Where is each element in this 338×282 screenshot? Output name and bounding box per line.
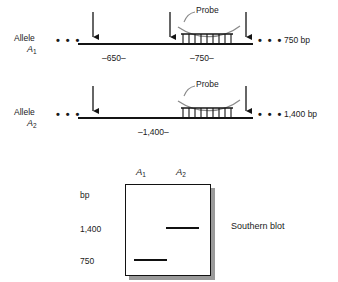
gel-lane-header-a2: A2 [176, 166, 186, 177]
allele-2-probe-leader [184, 86, 195, 96]
gel-size-marker-750: 750 [80, 256, 94, 266]
allele-2-probe-graphic [178, 86, 240, 117]
gel-band-a1-750 [134, 259, 167, 261]
gel-band-a2-1400 [166, 227, 199, 229]
gel-lane-header-a1: A1 [136, 166, 146, 177]
gel-lane-header-a1-sub: 1 [142, 171, 146, 178]
allele-1-probe-leader [184, 12, 195, 22]
allele-1-hybridization-ticks [183, 34, 231, 43]
allele-2-hybridization-ticks [183, 108, 231, 117]
gel-lane-header-a2-sub: 2 [182, 171, 186, 178]
figure-canvas: Allele A1 • • • • • • 750 bp Probe –650–… [0, 0, 338, 282]
allele-2-restriction-arrows [93, 86, 246, 111]
gel-membrane [125, 184, 211, 276]
allele-1-probe-graphic [178, 12, 240, 43]
gel-caption: Southern blot [231, 221, 285, 231]
gel-axis-title-bp: bp [80, 190, 89, 200]
allele-1-restriction-arrows [93, 12, 246, 37]
gel-size-marker-1400: 1,400 [80, 224, 101, 234]
